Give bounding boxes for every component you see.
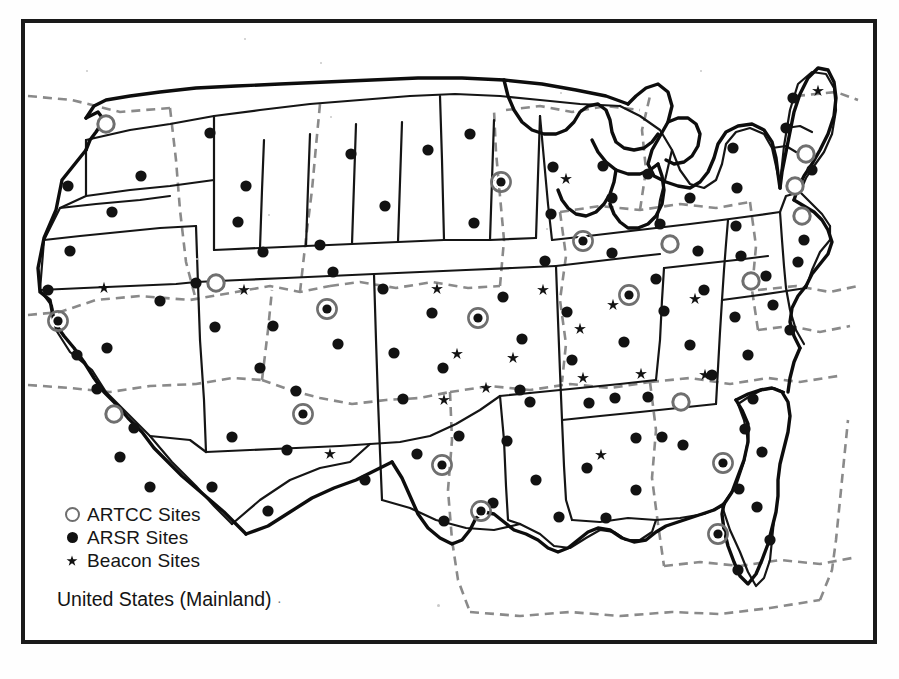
arsr-site-marker: [798, 234, 809, 245]
scan-artifact: [196, 258, 198, 260]
arsr-site-marker: [204, 127, 215, 138]
arsr-site-marker: [359, 474, 370, 485]
arsr-site-marker: [411, 448, 422, 459]
beacon-site-marker: [537, 284, 549, 295]
arsr-site-marker: [345, 148, 356, 159]
arsr-site-marker: [566, 354, 577, 365]
arsr-site-marker: [735, 250, 746, 261]
arsr-site-marker: [787, 92, 798, 103]
arsr-site-marker: [377, 283, 388, 294]
arsr-site-marker: [254, 362, 265, 373]
arsr-site-marker: [379, 200, 390, 211]
arsr-site-marker: [729, 311, 740, 322]
arsr-site-marker: [677, 439, 688, 450]
artcc-open-marker: [787, 178, 803, 194]
arsr-site-marker: [581, 462, 592, 473]
arsr-site-marker: [209, 321, 220, 332]
arsr-site-marker: [135, 170, 146, 181]
arsr-site-marker: [453, 430, 464, 441]
arsr-site-marker: [314, 239, 325, 250]
arsr-site-marker: [727, 142, 738, 153]
arsr-site-marker: [650, 273, 661, 284]
scan-artifact: [86, 70, 88, 72]
arsr-site-marker: [742, 349, 753, 360]
arsr-site-marker: [91, 383, 102, 394]
arsr-site-marker: [327, 266, 338, 277]
arsr-site-marker: [42, 284, 53, 295]
legend-item-artcc: ARTCC Sites: [57, 503, 317, 526]
arsr-site-marker: [731, 182, 742, 193]
legend-item-arsr: ARSR Sites: [57, 526, 317, 549]
beacon-star-icon: [57, 554, 87, 568]
scan-artifact: [244, 38, 246, 40]
arsr-site-marker: [422, 144, 433, 155]
arsr-site-marker: [658, 305, 669, 316]
caption-text: United States (Mainland): [57, 588, 272, 610]
scan-artifact: [268, 214, 270, 216]
map-legend: ARTCC Sites ARSR Sites Beacon Sites: [57, 503, 317, 572]
arsr-site-marker: [106, 206, 117, 217]
arsr-site-marker: [561, 306, 572, 317]
beacon-site-marker: [689, 293, 701, 304]
arsr-site-marker: [332, 338, 343, 349]
arsr-site-marker: [806, 164, 817, 175]
artcc-open-marker: [662, 236, 678, 252]
artcc-open-marker: [98, 116, 114, 132]
arsr-site-marker: [281, 444, 292, 455]
arsr-site-marker: [144, 481, 155, 492]
arsr-site-marker: [739, 423, 750, 434]
arsr-site-marker: [426, 307, 437, 318]
arsr-site-marker: [642, 391, 653, 402]
arsr-site-marker: [501, 435, 512, 446]
arsr-site-marker: [468, 217, 479, 228]
arsr-site-marker: [706, 369, 717, 380]
arsr-site-marker: [206, 481, 217, 492]
arsr-site-marker: [756, 446, 767, 457]
beacon-site-marker: [577, 372, 589, 383]
legend-label-artcc: ARTCC Sites: [87, 504, 201, 526]
arsr-site-marker: [388, 347, 399, 358]
scan-artifact: [560, 92, 562, 94]
beacon-site-marker: [438, 394, 450, 405]
arsr-site-marker: [656, 431, 667, 442]
arsr-site-marker: [516, 333, 527, 344]
beacon-site-marker: [560, 173, 572, 184]
artcc-colocated-marker: [432, 455, 451, 474]
artcc-colocated-marker: [491, 172, 510, 191]
arsr-site-marker: [600, 512, 611, 523]
beacon-site-marker: [451, 348, 463, 359]
arsr-site-marker: [62, 180, 73, 191]
arsr-site-marker: [101, 342, 112, 353]
arsr-site-marker: [618, 336, 629, 347]
arsr-site-marker: [733, 483, 744, 494]
arsr-site-marker: [154, 295, 165, 306]
scan-artifact: [700, 70, 702, 72]
artcc-colocated-marker: [317, 299, 336, 318]
arsr-site-marker: [114, 451, 125, 462]
arsr-site-marker: [692, 245, 703, 256]
arsr-site-marker: [438, 515, 449, 526]
artcc-open-circle-icon: [57, 507, 87, 522]
artcc-colocated-marker: [713, 453, 732, 472]
artcc-open-marker: [208, 275, 224, 291]
arsr-site-marker: [606, 247, 617, 258]
arsr-site-marker: [128, 422, 139, 433]
scan-artifact: [320, 62, 322, 64]
arsr-site-marker: [64, 245, 75, 256]
beacon-site-marker: [324, 448, 336, 459]
scan-artifact: [546, 228, 548, 230]
arsr-site-marker: [583, 397, 594, 408]
artcc-open-marker: [106, 406, 122, 422]
scan-artifact: [330, 116, 332, 118]
arsr-site-marker: [397, 393, 408, 404]
legend-item-beacon: Beacon Sites: [57, 549, 317, 572]
arsr-site-marker: [792, 256, 803, 267]
arsr-site-marker: [514, 384, 525, 395]
arsr-site-marker: [630, 484, 641, 495]
arsr-site-marker: [780, 122, 791, 133]
arsr-site-marker: [464, 128, 475, 139]
arsr-site-marker: [654, 218, 665, 229]
arsr-site-marker: [609, 392, 620, 403]
artcc-colocated-marker: [573, 231, 592, 250]
arsr-site-marker: [684, 339, 695, 350]
